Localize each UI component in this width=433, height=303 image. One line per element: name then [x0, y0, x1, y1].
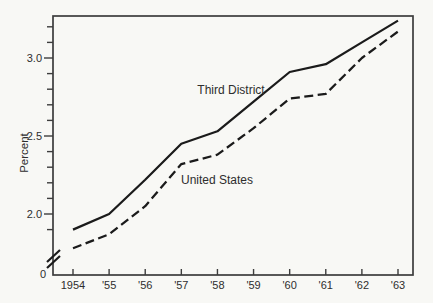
line-chart-canvas: 2.02.53.001954'55'56'57'58'59'60'61'62'6… — [0, 0, 433, 303]
x-axis-tick-label: '56 — [138, 279, 152, 291]
x-axis-tick-label: '63 — [391, 279, 405, 291]
x-axis-tick-label: '59 — [246, 279, 260, 291]
y-axis-tick-label: 2.0 — [27, 208, 42, 220]
series-line-third-district — [73, 21, 398, 230]
y-axis-tick-label: 3.0 — [27, 52, 42, 64]
chart-figure: 2.02.53.001954'55'56'57'58'59'60'61'62'6… — [0, 0, 433, 303]
series-line-united-states — [73, 32, 398, 249]
series-label-united-states: United States — [181, 173, 253, 187]
x-axis-tick-label: '62 — [355, 279, 369, 291]
x-axis-tick-label: '61 — [319, 279, 333, 291]
x-axis-tick-label: '55 — [102, 279, 116, 291]
plot-border — [53, 16, 413, 275]
y-axis-title: Percent — [18, 132, 30, 172]
series-label-third-district: Third District — [197, 83, 265, 97]
x-axis-tick-label: 1954 — [61, 279, 85, 291]
x-axis-tick-label: '60 — [282, 279, 296, 291]
x-axis-tick-label: '57 — [174, 279, 188, 291]
y-axis-origin-label: 0 — [40, 268, 46, 280]
x-axis-tick-label: '58 — [210, 279, 224, 291]
